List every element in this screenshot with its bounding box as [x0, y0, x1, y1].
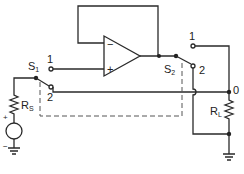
rs-resistor — [10, 92, 18, 123]
output-node-label: 0 — [233, 84, 239, 96]
s1-pos2-label: 2 — [47, 91, 53, 103]
s2-pos1-label: 1 — [189, 30, 195, 42]
s1-pos2-wire — [53, 87, 229, 92]
rl-label: RL — [210, 105, 222, 118]
source-plus: + — [3, 113, 8, 122]
opamp-minus-label: − — [107, 38, 113, 50]
ground-icon-left — [8, 148, 20, 154]
s1-pos1-label: 1 — [47, 53, 53, 65]
s1-lever — [36, 78, 49, 86]
s2-lever — [176, 56, 191, 64]
s2-pos2-wire — [193, 68, 229, 134]
ground-icon-right — [223, 154, 235, 160]
voltage-source — [6, 123, 22, 139]
circuit-diagram: − + 1 2 S2 S1 1 2 0 RS + − RL — [0, 0, 244, 174]
s2-label: S2 — [164, 63, 175, 76]
s2-contact-2 — [191, 64, 195, 68]
rs-top-wire — [14, 78, 36, 92]
source-minus: − — [3, 142, 8, 151]
feedback-wire — [78, 6, 158, 56]
s2-pos2-label: 2 — [199, 64, 205, 76]
rl-resistor — [225, 92, 233, 134]
rs-label: RS — [21, 99, 34, 112]
s1-contact-1 — [49, 67, 53, 71]
junction-dot — [157, 54, 161, 58]
s2-contact-1 — [191, 44, 195, 48]
s1-label: S1 — [28, 60, 39, 73]
opamp-plus-label: + — [107, 63, 113, 75]
